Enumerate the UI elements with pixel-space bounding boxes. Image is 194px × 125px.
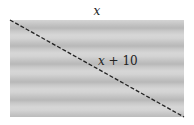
diagonal-dashed-line [0, 0, 194, 125]
top-side-label: x [94, 4, 101, 18]
diagonal-label: x + 10 [98, 54, 138, 68]
diagonal-label-rest: + 10 [105, 54, 138, 68]
diagonal-label-variable: x [98, 54, 105, 68]
